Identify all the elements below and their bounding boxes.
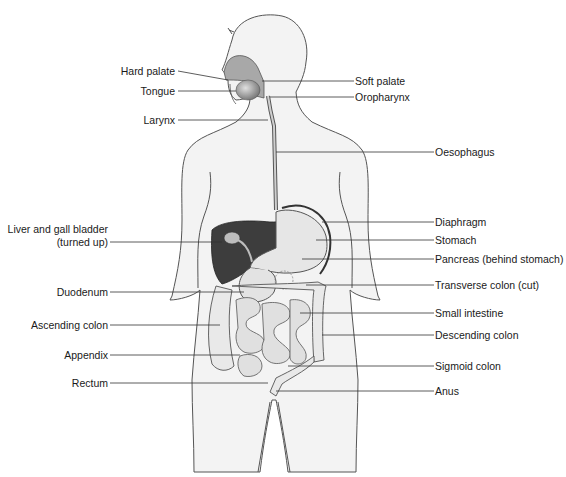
- label-duodenum: Duodenum: [57, 286, 108, 298]
- label-small-intestine: Small intestine: [435, 307, 503, 319]
- label-ascending-colon: Ascending colon: [31, 319, 108, 331]
- label-descending-colon: Descending colon: [435, 329, 518, 341]
- digestive-system-diagram: Hard palate Tongue Larynx Liver and gall…: [0, 0, 566, 477]
- label-larynx: Larynx: [143, 114, 175, 126]
- label-oropharynx: Oropharynx: [355, 91, 410, 103]
- label-appendix: Appendix: [64, 349, 108, 361]
- label-rectum: Rectum: [72, 377, 108, 389]
- label-anus: Anus: [435, 385, 459, 397]
- label-soft-palate: Soft palate: [355, 75, 405, 87]
- label-tongue: Tongue: [141, 85, 175, 97]
- label-diaphragm: Diaphragm: [435, 216, 486, 228]
- label-sigmoid-colon: Sigmoid colon: [435, 360, 501, 372]
- label-stomach: Stomach: [435, 234, 476, 246]
- label-oesophagus: Oesophagus: [435, 146, 495, 158]
- label-liver-line1: Liver and gall bladder: [8, 223, 108, 235]
- label-hard-palate: Hard palate: [121, 65, 175, 77]
- label-transverse-colon: Transverse colon (cut): [435, 279, 539, 291]
- label-liver-line2: (turned up): [57, 236, 108, 248]
- label-pancreas: Pancreas (behind stomach): [435, 253, 563, 265]
